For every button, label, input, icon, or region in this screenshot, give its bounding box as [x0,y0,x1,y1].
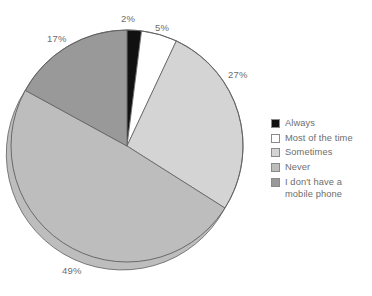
legend-swatch-icon-always [271,119,280,128]
legend-item-most-of-the-time[interactable]: Most of the time [271,132,371,144]
slice-label-most-of-the-time: 5% [155,22,169,33]
pie-chart: 2% 5% 27% 49% 17% Always Most of the tim… [0,0,372,296]
legend-swatch-icon-never [271,163,280,172]
legend-item-never[interactable]: Never [271,161,371,173]
legend-item-no-mobile-phone[interactable]: I don't have a mobile phone [271,176,371,200]
legend: Always Most of the time Sometimes Never … [271,117,371,203]
legend-label-no-mobile-phone: I don't have a mobile phone [285,176,371,200]
slice-label-always: 2% [121,13,135,24]
legend-label-always: Always [285,117,315,129]
legend-swatch-icon-sometimes [271,148,280,157]
slice-label-no-mobile-phone: 17% [47,33,67,44]
legend-label-never: Never [285,161,310,173]
slice-label-sometimes: 27% [228,69,248,80]
slice-label-never: 49% [62,265,82,276]
legend-swatch-icon-no-mobile-phone [271,178,280,187]
legend-item-sometimes[interactable]: Sometimes [271,146,371,158]
legend-label-sometimes: Sometimes [285,146,332,158]
legend-item-always[interactable]: Always [271,117,371,129]
legend-swatch-icon-most-of-the-time [271,134,280,143]
legend-label-most-of-the-time: Most of the time [285,132,353,144]
